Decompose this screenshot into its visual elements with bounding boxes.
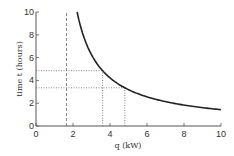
x-tick-label: 2 [70, 129, 75, 139]
x-tick-label: 10 [216, 129, 226, 139]
y-axis-label: time t (hours) [15, 41, 24, 97]
y-tick-label: 2 [29, 98, 34, 108]
y-tick-label: 8 [29, 30, 34, 40]
chart: 02468100246810 q (kW) time t (hours) [0, 0, 234, 156]
x-tick-label: 8 [181, 129, 186, 139]
y-tick-label: 0 [29, 121, 34, 131]
y-tick-label: 4 [29, 75, 34, 85]
data-curve [77, 12, 221, 110]
y-tick-label: 10 [24, 7, 34, 17]
x-axis-label: q (kW) [115, 141, 142, 150]
x-tick-label: 0 [33, 129, 38, 139]
y-tick-label: 6 [29, 53, 34, 63]
guide-lines [36, 12, 125, 126]
x-tick-label: 6 [144, 129, 149, 139]
ticks: 02468100246810 [24, 7, 226, 139]
x-tick-label: 4 [107, 129, 112, 139]
axes [36, 12, 221, 126]
